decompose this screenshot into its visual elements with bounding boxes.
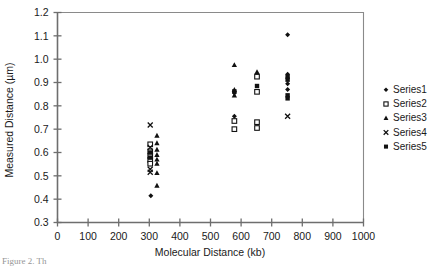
data-point-filled-square (148, 150, 152, 154)
y-tick-label: 0.8 (34, 100, 49, 112)
x-axis-title: Molecular Distance (kb) (155, 246, 265, 258)
data-point-triangle (154, 147, 159, 152)
x-tick-label: 400 (171, 230, 189, 242)
legend-item-series1[interactable]: Series1 (384, 84, 428, 95)
data-point-triangle (154, 152, 159, 157)
data-point-triangle (154, 140, 159, 145)
data-point-open-square (255, 126, 260, 131)
series-group-series4 (148, 114, 290, 175)
data-point-open-square (255, 90, 260, 95)
figure-caption-fragment: Figure 2. Th (2, 256, 122, 267)
y-tick-label: 0.7 (34, 123, 49, 135)
plot-frame (58, 13, 364, 223)
legend-item-series3[interactable]: Series3 (384, 112, 428, 123)
data-point-open-square (255, 120, 260, 125)
data-point-triangle (154, 133, 159, 138)
x-tick-label: 600 (232, 230, 250, 242)
data-point-diamond (285, 87, 290, 92)
y-tick-label: 0.6 (34, 146, 49, 158)
legend-marker-cross-icon (384, 130, 389, 135)
data-point-layer (148, 32, 290, 198)
y-tick-label: 1.2 (34, 6, 49, 18)
data-point-triangle (154, 183, 159, 188)
data-point-cross (148, 170, 153, 175)
legend-marker-filled-square-icon (384, 145, 388, 149)
data-point-triangle (154, 170, 159, 175)
x-tick-label: 900 (324, 230, 342, 242)
y-tick-label: 0.3 (34, 216, 49, 228)
data-point-open-square (232, 119, 237, 124)
series-group-series1 (148, 32, 290, 198)
legend-item-series2[interactable]: Series2 (384, 98, 427, 109)
x-tick-label: 0 (55, 230, 61, 242)
data-point-filled-square (285, 78, 289, 82)
x-tick-label: 200 (110, 230, 128, 242)
data-point-cross (285, 114, 290, 119)
legend-item-series4[interactable]: Series4 (384, 127, 428, 138)
data-point-cross (148, 122, 153, 127)
x-axis-tick-labels: 01002003004005006007008009001000 (55, 230, 376, 242)
data-point-open-square (232, 127, 237, 132)
figure-container: 01002003004005006007008009001000 0.30.40… (0, 0, 439, 268)
series-group-series2 (148, 74, 259, 166)
x-tick-label: 500 (202, 230, 220, 242)
series-group-series3 (154, 62, 259, 188)
data-point-filled-square (148, 155, 152, 159)
data-point-triangle (232, 62, 237, 67)
data-point-filled-square (255, 84, 259, 88)
legend-marker-diamond-icon (384, 88, 389, 93)
x-tick-label: 1000 (352, 230, 376, 242)
data-point-open-square (148, 161, 153, 166)
legend-item-series5[interactable]: Series5 (384, 141, 427, 152)
data-point-open-square (255, 74, 260, 79)
legend-label: Series2 (393, 98, 427, 109)
chart-legend: Series1Series2Series3Series4Series5 (384, 84, 428, 152)
y-tick-label: 1.1 (34, 30, 49, 42)
legend-marker-open-square-icon (384, 102, 388, 106)
scatter-chart: 01002003004005006007008009001000 0.30.40… (0, 0, 439, 268)
series-group-series5 (148, 74, 290, 159)
data-point-diamond (232, 114, 237, 119)
y-tick-label: 0.5 (34, 170, 49, 182)
data-point-diamond (148, 193, 153, 198)
legend-label: Series4 (393, 127, 427, 138)
y-axis-tick-labels: 0.30.40.50.60.70.80.91.01.11.2 (34, 6, 49, 228)
x-tick-label: 300 (141, 230, 159, 242)
x-tick-label: 700 (263, 230, 281, 242)
data-point-filled-square (285, 96, 289, 100)
x-tick-label: 100 (79, 230, 97, 242)
data-point-diamond (285, 32, 290, 37)
x-tick-label: 800 (294, 230, 312, 242)
legend-marker-triangle-icon (384, 116, 389, 121)
y-axis-title: Measured Distance (µm) (3, 62, 15, 177)
legend-label: Series3 (393, 112, 427, 123)
data-point-triangle (254, 69, 259, 74)
data-point-diamond (285, 81, 290, 86)
data-point-filled-square (232, 89, 236, 93)
y-tick-label: 1.0 (34, 53, 49, 65)
y-tick-label: 0.9 (34, 76, 49, 88)
legend-label: Series1 (393, 84, 427, 95)
legend-label: Series5 (393, 141, 427, 152)
y-tick-label: 0.4 (34, 193, 49, 205)
